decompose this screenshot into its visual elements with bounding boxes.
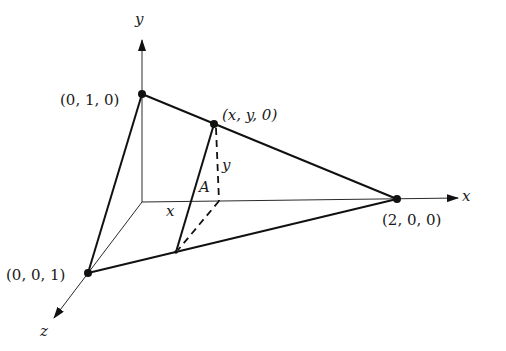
x-position-label: x — [166, 202, 175, 220]
cross-section-area-label: A — [197, 178, 210, 196]
x-axis — [142, 198, 458, 202]
tetrahedron-diagram: y x z (0, 1, 0) (2, 0, 0) (0, 0, 1) (x, … — [0, 0, 506, 351]
cross-section-height-dashed — [216, 128, 219, 201]
x-axis-label: x — [462, 187, 471, 205]
edge-z-to-x — [88, 199, 397, 273]
height-y-label: y — [221, 156, 231, 174]
vertex-dot-xy — [210, 120, 218, 128]
vertex-label-z: (0, 0, 1) — [6, 266, 65, 284]
vertex-label-xy: (x, y, 0) — [222, 106, 277, 124]
vertex-dot-y — [138, 90, 146, 98]
cross-section-bottom-dot — [174, 250, 178, 254]
z-axis-label: z — [39, 322, 48, 340]
z-axis — [54, 202, 142, 318]
y-axis-label: y — [134, 10, 144, 28]
vertex-dot-z — [84, 269, 92, 277]
edge-y-to-z — [88, 94, 142, 273]
vertex-label-y: (0, 1, 0) — [60, 91, 119, 109]
vertex-dot-x — [393, 195, 401, 203]
vertex-label-x: (2, 0, 0) — [382, 211, 441, 229]
